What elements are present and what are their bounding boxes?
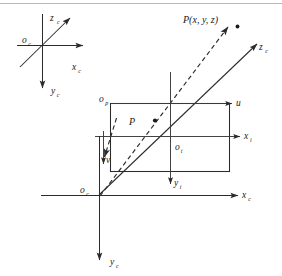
image-point-marker — [153, 118, 157, 122]
inset-y-subscript: c — [57, 92, 60, 98]
world-z-axis — [99, 44, 257, 195]
world-x-subscript: c — [248, 196, 251, 202]
world-z-subscript: c — [265, 48, 268, 54]
world-origin-subscript: c — [86, 191, 89, 197]
image-origin-label: o — [175, 142, 180, 152]
world-z-label: z — [258, 42, 263, 52]
image-plane-group: o p u v x i y i o i P — [95, 72, 252, 190]
image-origin-subscript: i — [181, 148, 183, 154]
world-origin-label: o — [80, 185, 85, 195]
camera-frame-inset: z c o c x c y c — [17, 13, 83, 98]
world-x-label: x — [241, 190, 247, 200]
world-point-label: P(x, y, z) — [182, 14, 219, 26]
image-x-subscript: i — [250, 137, 252, 143]
inset-origin-label: o — [22, 35, 27, 45]
u-axis-label: u — [236, 98, 241, 108]
world-y-label: y — [109, 257, 115, 267]
image-y-label: y — [173, 178, 179, 188]
world-point-marker — [236, 25, 240, 29]
world-frame-group: x c y c o c — [41, 136, 251, 269]
image-y-subscript: i — [180, 184, 182, 190]
image-plane-corner-label: o — [99, 94, 104, 104]
world-y-subscript: c — [116, 263, 119, 269]
projection-ray-dashed — [100, 27, 228, 196]
inset-z-subscript: c — [57, 19, 60, 25]
image-x-label: x — [243, 131, 249, 141]
projection-geometry-diagram: z c o c x c y c z c P(x, y, z) — [0, 0, 282, 276]
figure-canvas: z c o c x c y c z c P(x, y, z) — [0, 0, 282, 276]
inset-origin-subscript: c — [28, 41, 31, 47]
inset-x-label: x — [71, 62, 77, 72]
image-point-label: P — [128, 116, 135, 127]
image-plane-corner-subscript: p — [104, 100, 108, 106]
inset-z-label: z — [49, 13, 54, 23]
image-plane-rect — [111, 104, 230, 172]
inset-x-subscript: c — [78, 68, 81, 74]
inset-y-label: y — [50, 86, 56, 96]
